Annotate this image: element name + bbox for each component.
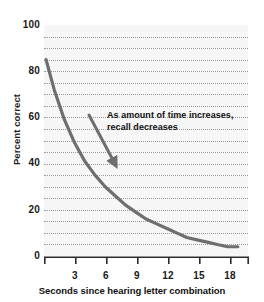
plot-area [44,25,248,256]
x-tick-label-12: 12 [155,270,181,281]
x-tick-label-3: 3 [62,270,88,281]
y-tick-label-60: 60 [0,112,40,122]
trend-annotation-line-2: recall decreases [107,122,233,134]
percent-correct-decay-chart: Percent correct 100 80 60 40 20 0 [0,0,264,302]
x-axis-line [40,256,252,268]
y-tick-label-80: 80 [0,66,40,76]
y-tick-label-20: 20 [0,205,40,215]
data-series-curve-svg [44,25,248,256]
trend-annotation-line-1: As amount of time increases, [107,110,233,122]
x-tick-label-9: 9 [124,270,150,281]
x-axis-title: Seconds since hearing letter combination [0,285,264,296]
y-tick-label-0: 0 [0,251,40,261]
x-tick-label-18: 18 [217,270,243,281]
y-tick-label-40: 40 [0,158,40,168]
x-tick-label-15: 15 [186,270,212,281]
y-axis-title: Percent correct [11,65,22,195]
trend-annotation-text: As amount of time increases, recall decr… [107,110,233,133]
recall-decay-curve [46,60,238,247]
x-tick-label-6: 6 [93,270,119,281]
y-tick-label-100: 100 [0,20,40,30]
